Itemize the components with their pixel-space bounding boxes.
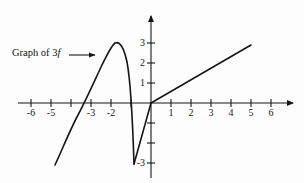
x-tick-label-4: 4 (229, 108, 234, 118)
y-tick-label-minus3: -3 (130, 158, 145, 168)
x-tick-label-1: 1 (169, 108, 174, 118)
curve-3f-right-line (151, 45, 251, 103)
x-tick-label-minus2: -2 (107, 108, 115, 118)
x-tick-label-5: 5 (249, 108, 254, 118)
graph-figure: -6 -5 -3 -2 1 2 3 4 5 6 1 2 3 -3 Graph o… (0, 0, 304, 183)
x-tick-label-6: 6 (269, 108, 274, 118)
x-tick-label-minus6: -6 (27, 108, 35, 118)
curve-3f-v-rise (134, 103, 151, 164)
y-tick-label-1: 1 (136, 78, 145, 88)
graph-of-3f-label-function: f (58, 47, 61, 58)
x-tick-label-3: 3 (209, 108, 214, 118)
x-tick-label-minus5: -5 (47, 108, 55, 118)
x-tick-label-2: 2 (189, 108, 194, 118)
y-tick-label-3: 3 (136, 38, 145, 48)
y-tick-label-2: 2 (136, 58, 145, 68)
curve-3f-left-branch (55, 43, 134, 165)
plot-canvas (0, 0, 304, 183)
graph-of-3f-label-prefix: Graph of 3 (12, 47, 58, 58)
graph-of-3f-label: Graph of 3f (12, 47, 60, 59)
x-tick-label-minus3: -3 (87, 108, 95, 118)
